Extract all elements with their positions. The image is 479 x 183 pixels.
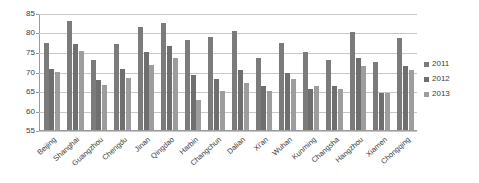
bar[interactable] xyxy=(356,58,361,130)
legend-swatch-icon xyxy=(424,92,429,97)
bar[interactable] xyxy=(167,46,172,130)
bar-group xyxy=(87,14,111,130)
bar[interactable] xyxy=(208,37,213,130)
y-tick-mark xyxy=(36,92,39,93)
legend-item-2013[interactable]: 2013 xyxy=(424,90,450,98)
bar[interactable] xyxy=(373,62,378,130)
bar[interactable] xyxy=(326,60,331,130)
bar[interactable] xyxy=(244,83,249,130)
bar[interactable] xyxy=(73,44,78,130)
bar[interactable] xyxy=(238,70,243,130)
bar[interactable] xyxy=(114,44,119,130)
y-tick-mark xyxy=(36,131,39,132)
bar[interactable] xyxy=(285,73,290,130)
x-axis-labels: BeijingShanghaiGuangzhouChengduJinanQing… xyxy=(40,133,418,183)
bar[interactable] xyxy=(397,38,402,130)
bar[interactable] xyxy=(96,80,101,130)
x-label-cell: Chengdu xyxy=(111,133,135,183)
bar[interactable] xyxy=(191,75,196,130)
bar[interactable] xyxy=(44,43,49,130)
y-tick-label: 70 xyxy=(26,69,35,77)
bar-group xyxy=(393,14,417,130)
bar-group xyxy=(370,14,394,130)
bar[interactable] xyxy=(49,69,54,130)
bar[interactable] xyxy=(149,65,154,130)
bar-group xyxy=(229,14,253,130)
bar[interactable] xyxy=(67,21,72,130)
bar-chart: 85807570656055 BeijingShanghaiGuangzhouC… xyxy=(0,0,479,183)
y-tick-mark xyxy=(36,112,39,113)
x-label-cell: Dalian xyxy=(229,133,253,183)
legend: 2011 2012 2013 xyxy=(424,60,450,98)
bar[interactable] xyxy=(308,89,313,130)
bar[interactable] xyxy=(409,70,414,130)
bar-group xyxy=(299,14,323,130)
bar-group xyxy=(134,14,158,130)
bar[interactable] xyxy=(350,32,355,130)
legend-item-label: 2012 xyxy=(432,75,450,83)
legend-swatch-icon xyxy=(424,62,429,67)
bar[interactable] xyxy=(126,78,131,130)
bar-group xyxy=(40,14,64,130)
bar[interactable] xyxy=(79,51,84,130)
y-tick-label: 75 xyxy=(26,49,35,57)
y-tick-mark xyxy=(36,53,39,54)
y-tick-label: 55 xyxy=(26,127,35,135)
y-tick-mark xyxy=(36,73,39,74)
x-label-cell: Hangzhou xyxy=(347,133,371,183)
bar[interactable] xyxy=(173,58,178,130)
y-tick-label: 85 xyxy=(26,10,35,18)
bar[interactable] xyxy=(279,43,284,130)
gridline xyxy=(39,131,417,132)
bar[interactable] xyxy=(196,100,201,130)
x-axis-label: Jinan xyxy=(133,135,152,154)
bar[interactable] xyxy=(332,86,337,130)
x-label-cell: Qingdao xyxy=(158,133,182,183)
y-tick-label: 80 xyxy=(26,29,35,37)
bar[interactable] xyxy=(102,85,107,130)
bar[interactable] xyxy=(55,72,60,130)
legend-item-2011[interactable]: 2011 xyxy=(424,60,450,68)
bar[interactable] xyxy=(303,52,308,130)
x-label-cell: Xi'an xyxy=(253,133,277,183)
bar-group xyxy=(252,14,276,130)
bar[interactable] xyxy=(361,66,366,130)
bar[interactable] xyxy=(185,40,190,130)
bar[interactable] xyxy=(261,86,266,130)
bar[interactable] xyxy=(120,69,125,130)
bar[interactable] xyxy=(91,60,96,130)
bar-group xyxy=(158,14,182,130)
x-label-cell: Changchun xyxy=(205,133,229,183)
y-tick-mark xyxy=(36,14,39,15)
bar[interactable] xyxy=(214,79,219,130)
bar[interactable] xyxy=(385,93,390,130)
legend-item-2012[interactable]: 2012 xyxy=(424,75,450,83)
bar[interactable] xyxy=(220,91,225,130)
bar-group xyxy=(205,14,229,130)
bar-group xyxy=(346,14,370,130)
bar[interactable] xyxy=(161,23,166,130)
bar[interactable] xyxy=(144,52,149,130)
y-tick-mark xyxy=(36,33,39,34)
bar[interactable] xyxy=(338,89,343,130)
legend-item-label: 2013 xyxy=(432,90,450,98)
legend-item-label: 2011 xyxy=(432,60,449,68)
x-label-cell: Chongqing xyxy=(394,133,418,183)
plot-area: 85807570656055 xyxy=(39,14,417,131)
x-axis-label: Dalian xyxy=(225,135,247,156)
bar[interactable] xyxy=(256,58,261,130)
bar[interactable] xyxy=(291,79,296,130)
bar-group xyxy=(276,14,300,130)
y-tick-label: 65 xyxy=(26,88,35,96)
bar-group xyxy=(181,14,205,130)
bar-group xyxy=(111,14,135,130)
bar[interactable] xyxy=(379,93,384,131)
bar[interactable] xyxy=(403,66,408,130)
bar[interactable] xyxy=(232,31,237,130)
legend-swatch-icon xyxy=(424,77,429,82)
bar-groups xyxy=(40,14,417,130)
bar[interactable] xyxy=(138,27,143,130)
y-tick-label: 60 xyxy=(26,108,35,116)
bar[interactable] xyxy=(267,91,272,130)
bar[interactable] xyxy=(314,86,319,130)
